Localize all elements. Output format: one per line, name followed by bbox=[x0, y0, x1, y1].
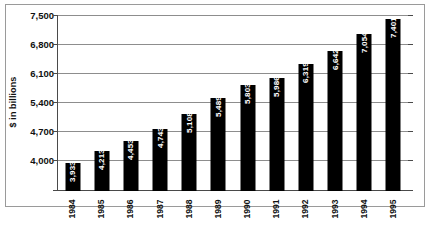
x-axis-tick-label: 1994 bbox=[350, 193, 379, 227]
bar[interactable]: 7,401 bbox=[386, 19, 401, 191]
x-axis-tick-label: 1987 bbox=[146, 193, 175, 227]
bar[interactable]: 5,489 bbox=[211, 98, 226, 191]
bar-value-label: 6,642 bbox=[331, 49, 340, 70]
bar-slot: 4,743 bbox=[146, 15, 175, 191]
bar-slot: 5,489 bbox=[204, 15, 233, 191]
y-axis-tick-label: 5,400 bbox=[18, 97, 54, 108]
bar-value-label: 5,108 bbox=[185, 112, 194, 133]
bar[interactable]: 5,986 bbox=[269, 78, 284, 191]
x-axis-tick-label-text: 1994 bbox=[359, 200, 369, 219]
x-axis-tick-label: 1988 bbox=[175, 193, 204, 227]
y-axis-tick-label: 6,800 bbox=[18, 39, 54, 50]
x-axis-tick-label: 1991 bbox=[262, 193, 291, 227]
x-axis-tick-label: 1995 bbox=[379, 193, 408, 227]
bar-value-label: 3,933 bbox=[68, 161, 77, 182]
bar[interactable]: 6,319 bbox=[298, 64, 313, 191]
y-axis-tick-mark-right bbox=[408, 15, 413, 16]
bar-value-label: 4,213 bbox=[97, 149, 106, 170]
x-axis-tick-label: 1992 bbox=[291, 193, 320, 227]
bar[interactable]: 5,803 bbox=[240, 85, 255, 191]
bar-value-label: 5,986 bbox=[272, 76, 281, 97]
x-axis-tick-label: 1984 bbox=[58, 193, 87, 227]
bar-value-label: 4,453 bbox=[126, 139, 135, 160]
x-axis-tick-label: 1990 bbox=[233, 193, 262, 227]
bar-value-label: 6,319 bbox=[301, 62, 310, 83]
y-axis-tick-mark-right bbox=[408, 131, 413, 132]
y-axis-tick-label: 4,000 bbox=[18, 155, 54, 166]
x-axis-tick-label-text: 1993 bbox=[330, 200, 340, 219]
x-axis-tick-label-text: 1991 bbox=[272, 200, 282, 219]
bar-slot: 6,642 bbox=[321, 15, 350, 191]
bar-value-label: 7,054 bbox=[360, 32, 369, 53]
y-axis-tick-mark-right bbox=[408, 160, 413, 161]
y-axis-tick-mark-right bbox=[408, 73, 413, 74]
bar-slot: 4,213 bbox=[87, 15, 116, 191]
y-axis-tick-label: 6,100 bbox=[18, 68, 54, 79]
bar-value-label: 5,803 bbox=[243, 83, 252, 104]
bar[interactable]: 3,933 bbox=[65, 163, 80, 191]
plot-area: 3,9334,2134,4534,7435,1085,4895,8035,986… bbox=[58, 15, 408, 191]
chart-figure: $ in billions 4,0004,7005,4006,1006,8007… bbox=[5, 4, 425, 207]
x-axis-tick-label: 1985 bbox=[87, 193, 116, 227]
x-axis-tick-label-text: 1987 bbox=[155, 200, 165, 219]
y-axis-tick-label: 7,500 bbox=[18, 10, 54, 21]
bar-slot: 3,933 bbox=[58, 15, 87, 191]
x-axis-tick-label: 1993 bbox=[321, 193, 350, 227]
x-axis-tick-label: 1986 bbox=[116, 193, 145, 227]
x-axis-tick-label-text: 1985 bbox=[97, 200, 107, 219]
bar-slot: 7,054 bbox=[350, 15, 379, 191]
y-axis-tick-mark-right bbox=[408, 44, 413, 45]
x-axis-tick-label-text: 1984 bbox=[68, 200, 78, 219]
x-axis-tick-labels: 1984198519861987198819891990199119921993… bbox=[58, 193, 408, 227]
bar-value-label: 7,401 bbox=[389, 17, 398, 38]
x-axis-tick-label-text: 1995 bbox=[388, 200, 398, 219]
bar[interactable]: 5,108 bbox=[182, 114, 197, 191]
bar[interactable]: 4,453 bbox=[123, 141, 138, 191]
bar-slot: 6,319 bbox=[291, 15, 320, 191]
bar[interactable]: 6,642 bbox=[328, 51, 343, 191]
bar-slot: 5,986 bbox=[262, 15, 291, 191]
bar-value-label: 4,743 bbox=[156, 127, 165, 148]
x-axis-tick-label-text: 1989 bbox=[213, 200, 223, 219]
y-axis-tick-label: 4,700 bbox=[18, 126, 54, 137]
bar[interactable]: 7,054 bbox=[357, 34, 372, 191]
bar-slot: 7,401 bbox=[379, 15, 408, 191]
x-axis-tick-label-text: 1990 bbox=[243, 200, 253, 219]
bar[interactable]: 4,743 bbox=[153, 129, 168, 191]
y-axis-tick-labels: 4,0004,7005,4006,1006,8007,500 bbox=[18, 15, 54, 191]
x-axis-tick-label-text: 1986 bbox=[126, 200, 136, 219]
x-axis-tick-label-text: 1992 bbox=[301, 200, 311, 219]
y-axis-title-text: $ in billions bbox=[8, 77, 18, 128]
bars-layer: 3,9334,2134,4534,7435,1085,4895,8035,986… bbox=[58, 15, 408, 191]
x-axis-tick-label: 1989 bbox=[204, 193, 233, 227]
bar-slot: 5,108 bbox=[175, 15, 204, 191]
x-axis-tick-label-text: 1988 bbox=[184, 200, 194, 219]
bar-slot: 5,803 bbox=[233, 15, 262, 191]
y-axis-tick-mark-right bbox=[408, 102, 413, 103]
bar-value-label: 5,489 bbox=[214, 96, 223, 117]
bar-slot: 4,453 bbox=[116, 15, 145, 191]
bar[interactable]: 4,213 bbox=[94, 151, 109, 191]
